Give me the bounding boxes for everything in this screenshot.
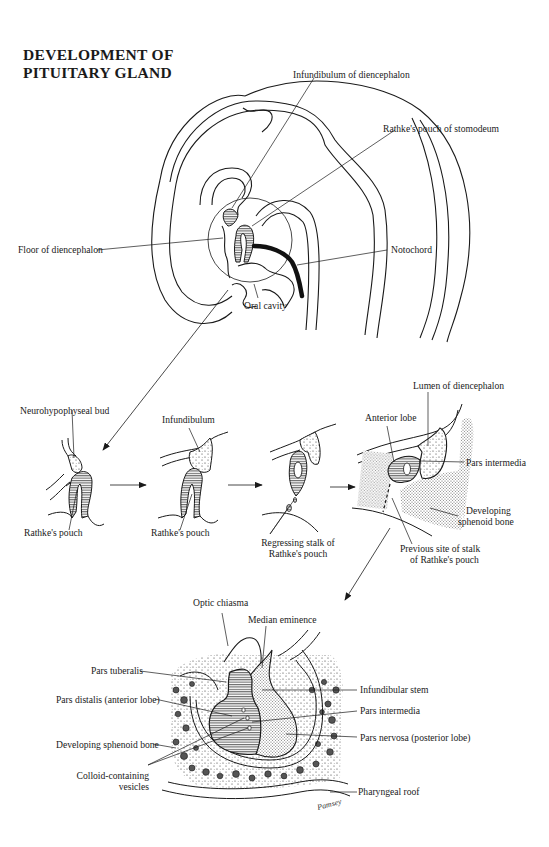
label-pars-distalis: Pars distalis (anterior lobe) <box>56 694 160 705</box>
label-optic-chiasma: Optic chiasma <box>193 597 248 608</box>
label-pharyngeal-roof: Pharyngeal roof <box>358 786 420 797</box>
stage-2-drawing <box>158 432 228 523</box>
previous-site-line-2: of Rathke's pouch <box>400 554 480 565</box>
colloid-line-2: vesicles <box>83 781 149 792</box>
stage-3-drawing <box>262 424 336 532</box>
label-infundibular-stem: Infundibular stem <box>360 684 428 695</box>
label-lumen-of-diencephalon: Lumen of diencephalon <box>413 380 504 391</box>
sphenoid-line-2: sphenoid bone <box>458 516 514 527</box>
regressing-stalk-line-2: Rathke's pouch <box>243 548 353 559</box>
final-gland-drawing: Pamsey <box>162 630 350 812</box>
label-anterior-lobe: Anterior lobe <box>365 412 416 423</box>
label-developing-sphenoid-bone: Developing sphenoid bone <box>56 739 159 750</box>
label-floor-of-diencephalon: Floor of diencephalon <box>18 244 103 255</box>
label-neurohypophyseal-bud: Neurohypophyseal bud <box>20 405 109 416</box>
label-previous-site-of-stalk: Previous site of stalk of Rathke's pouch <box>400 543 480 565</box>
embryo-infundibulum-shape <box>223 209 238 226</box>
stage-4-drawing <box>352 404 473 536</box>
embryo-head-drawing <box>152 81 470 342</box>
regressing-stalk-line-1: Regressing stalk of <box>243 537 353 548</box>
label-pars-tuberalis: Pars tuberalis <box>91 665 143 676</box>
previous-site-line-1: Previous site of stalk <box>400 543 480 554</box>
stage-1-drawing <box>46 438 104 526</box>
artist-signature: Pamsey <box>315 797 343 813</box>
label-median-eminence: Median eminence <box>248 614 316 625</box>
label-pars-intermedia-stage4: Pars intermedia <box>466 457 526 468</box>
label-stage2-rathkes-pouch: Rathke's pouch <box>151 527 209 538</box>
label-rathkes-pouch-of-stomodeum: Rathke's pouch of stomodeum <box>383 123 499 134</box>
label-infundibulum-of-diencephalon: Infundibulum of diencephalon <box>293 69 410 80</box>
label-colloid-vesicles: Colloid-containing vesicles <box>83 770 149 792</box>
label-developing-sphenoid-stage4: Developing sphenoid bone <box>458 505 514 527</box>
label-pars-nervosa: Pars nervosa (posterior lobe) <box>360 732 471 743</box>
label-oral-cavity: Oral cavity <box>244 300 287 311</box>
colloid-line-1: Colloid-containing <box>63 770 149 781</box>
label-stage1-rathkes-pouch: Rathke's pouch <box>24 527 82 538</box>
label-infundibulum: Infundibulum <box>162 414 215 425</box>
label-notochord: Notochord <box>391 244 432 255</box>
embryo-rathke-pouch-shape <box>235 225 254 262</box>
sphenoid-line-1: Developing <box>458 505 514 516</box>
label-pars-intermedia: Pars intermedia <box>360 705 420 716</box>
label-regressing-stalk: Regressing stalk of Rathke's pouch <box>243 537 353 559</box>
